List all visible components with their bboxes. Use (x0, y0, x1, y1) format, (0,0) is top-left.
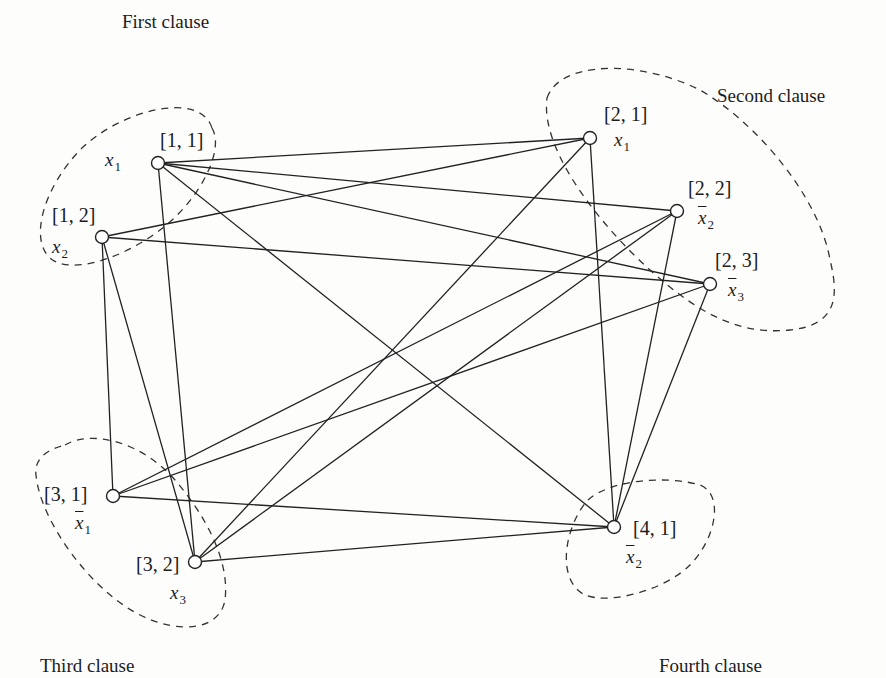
node-n32 (189, 556, 202, 569)
literal-var: x (170, 582, 178, 603)
literal-subscript: 3 (179, 592, 186, 607)
node-n11 (152, 157, 165, 170)
second-clause-title: Second clause (717, 86, 825, 105)
edge-n12-n32 (102, 237, 195, 562)
edge-n21-n32 (195, 138, 590, 562)
first-clause-title: First clause (122, 12, 209, 31)
fourth-clause-title: Fourth clause (659, 656, 762, 675)
node-n22 (671, 205, 684, 218)
literal-var: x (52, 236, 60, 257)
literal-var: x (626, 546, 634, 567)
node-n31 (107, 490, 120, 503)
node-label-3-2: [3, 2] (136, 554, 179, 574)
literal-subscript: 2 (707, 217, 714, 232)
edge-n12-n21 (102, 138, 590, 237)
node-label-2-2: [2, 2] (688, 178, 731, 198)
edge-group (102, 138, 710, 562)
literal-subscript: 2 (61, 246, 68, 261)
edge-n11-n32 (158, 163, 195, 562)
node-n23 (704, 278, 717, 291)
edge-n32-n41 (195, 527, 614, 562)
literal-subscript: 1 (84, 522, 91, 537)
edge-n12-n31 (102, 237, 113, 496)
edge-n12-n23 (102, 237, 710, 284)
literal-1-1: x1 (105, 150, 121, 169)
edge-n11-n41 (158, 163, 614, 527)
node-label-3-1: [3, 1] (44, 484, 87, 504)
edge-n31-n41 (113, 496, 614, 527)
edge-n11-n23 (158, 163, 710, 284)
edge-n23-n41 (614, 284, 710, 527)
node-n41 (608, 521, 621, 534)
literal-2-1: x1 (614, 130, 630, 149)
edge-n21-n41 (590, 138, 614, 527)
literal-subscript: 2 (635, 556, 642, 571)
node-n12 (96, 231, 109, 244)
node-label-1-1: [1, 1] (160, 130, 203, 150)
literal-1-2: x2 (52, 237, 68, 256)
literal-subscript: 1 (623, 139, 630, 154)
fourth-clause-boundary (566, 480, 714, 598)
literal-subscript: 3 (737, 289, 744, 304)
clause-boundaries (36, 68, 835, 627)
literal-var: x (105, 149, 113, 170)
literal-3-1: x1 (75, 513, 91, 532)
literal-3-2: x3 (170, 583, 186, 602)
third-clause-title: Third clause (40, 656, 134, 675)
node-label-1-2: [1, 2] (52, 205, 95, 225)
literal-4-1: x2 (626, 547, 642, 566)
literal-subscript: 1 (114, 159, 121, 174)
node-label-2-1: [2, 1] (604, 104, 647, 124)
literal-var: x (698, 207, 706, 228)
literal-var: x (728, 279, 736, 300)
edge-n22-n31 (113, 211, 677, 496)
literal-2-3: x3 (728, 280, 744, 299)
literal-var: x (614, 129, 622, 150)
edge-n11-n22 (158, 163, 677, 211)
node-n21 (584, 132, 597, 145)
node-label-2-3: [2, 3] (715, 250, 758, 270)
literal-2-2: x2 (698, 208, 714, 227)
literal-var: x (75, 512, 83, 533)
edge-n23-n31 (113, 284, 710, 496)
node-label-4-1: [4, 1] (633, 518, 676, 538)
